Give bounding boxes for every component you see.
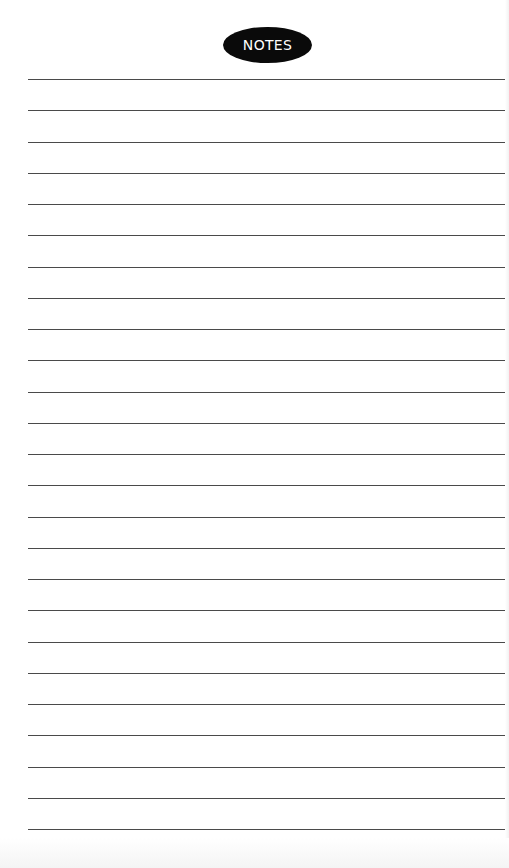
ruled-line — [28, 142, 505, 143]
ruled-line — [28, 173, 505, 174]
ruled-line — [28, 298, 505, 299]
notes-page: NOTES — [0, 0, 509, 868]
ruled-line — [28, 454, 505, 455]
ruled-line — [28, 329, 505, 330]
ruled-line — [28, 485, 505, 486]
ruled-line — [28, 704, 505, 705]
ruled-line — [28, 579, 505, 580]
ruled-line — [28, 517, 505, 518]
ruled-line — [28, 829, 505, 830]
ruled-line — [28, 360, 505, 361]
ruled-line — [28, 204, 505, 205]
ruled-line — [28, 267, 505, 268]
ruled-line — [28, 235, 505, 236]
ruled-line — [28, 735, 505, 736]
ruled-lines — [0, 0, 509, 868]
ruled-line — [28, 673, 505, 674]
ruled-line — [28, 548, 505, 549]
ruled-line — [28, 767, 505, 768]
ruled-line — [28, 423, 505, 424]
page-edge-shadow-right — [505, 0, 509, 868]
ruled-line — [28, 392, 505, 393]
ruled-line — [28, 642, 505, 643]
ruled-line — [28, 79, 505, 80]
page-edge-shadow-bottom — [0, 838, 509, 868]
ruled-line — [28, 110, 505, 111]
ruled-line — [28, 610, 505, 611]
ruled-line — [28, 798, 505, 799]
